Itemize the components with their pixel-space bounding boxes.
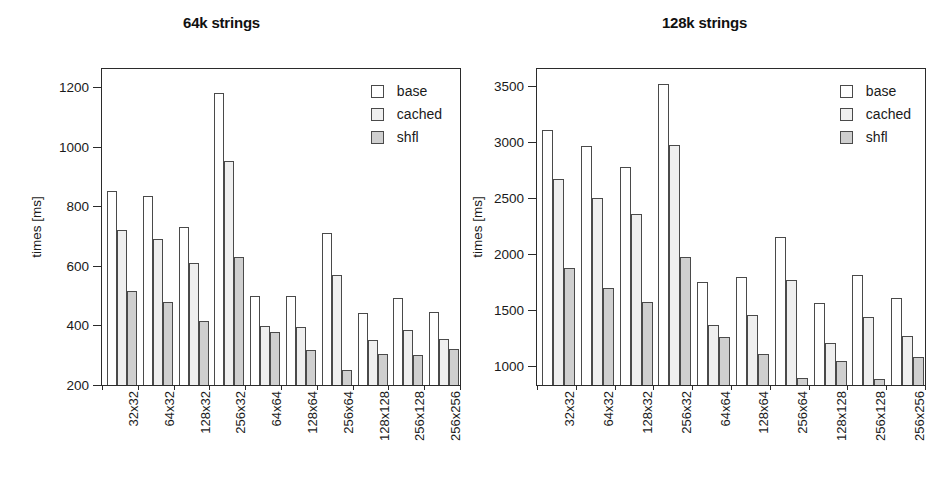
bar-base-64x64	[250, 296, 260, 385]
bar-cached-128x32	[631, 214, 642, 385]
bar-shfl-32x32	[564, 268, 575, 385]
legend-item-base: base	[371, 81, 442, 101]
plot-area-right: times [ms] 100015002000250030003500 32x3…	[536, 68, 926, 386]
legend-swatch-icon-base	[371, 85, 384, 98]
x-axis-label-64x32: 64x32	[601, 391, 616, 426]
legend-label-shfl: shfl	[866, 130, 888, 144]
y-tick-right-0	[528, 366, 537, 367]
bar-shfl-128x32	[199, 321, 209, 385]
x-axis-label-128x128: 128x128	[377, 391, 392, 441]
legend-item-cached: cached	[840, 104, 911, 124]
bar-cached-64x64	[260, 326, 270, 385]
y-tick-left-0	[93, 385, 102, 386]
bar-shfl-128x32	[642, 302, 653, 385]
bar-cached-256x64	[332, 275, 342, 385]
x-tick-left-10	[460, 385, 461, 390]
plot-area-left: times [ms] 20040060080010001200 32x3264x…	[101, 68, 461, 386]
legend-label-base: base	[397, 84, 427, 98]
y-tick-label-left-5: 1200	[59, 79, 89, 94]
bar-base-128x128	[358, 313, 368, 385]
x-axis-label-128x32: 128x32	[640, 391, 655, 434]
chart-title-left: 64k strings	[0, 14, 455, 31]
legend-swatch-icon-shfl	[371, 131, 384, 144]
bar-shfl-256x32	[680, 257, 691, 385]
bar-shfl-64x64	[270, 332, 280, 385]
y-tick-label-right-3: 2500	[494, 190, 524, 205]
x-axis-label-256x32: 256x32	[233, 391, 248, 434]
x-axis-label-64x32: 64x32	[162, 391, 177, 426]
y-axis-title-right: times [ms]	[470, 196, 485, 258]
bar-group	[138, 69, 174, 385]
y-tick-left-4	[93, 147, 102, 148]
figure-two-panel-bar-charts: 64k strings times [ms] 20040060080010001…	[0, 0, 935, 494]
bar-shfl-256x32	[234, 257, 244, 385]
y-tick-label-left-2: 600	[66, 258, 89, 273]
x-axis-label-128x32: 128x32	[198, 391, 213, 434]
bar-cached-128x128	[825, 343, 836, 385]
bar-group	[615, 69, 654, 385]
y-tick-left-5	[93, 87, 102, 88]
bar-cached-128x128	[368, 340, 378, 385]
y-tick-right-3	[528, 198, 537, 199]
y-tick-label-left-4: 1000	[59, 139, 89, 154]
bar-cached-256x256	[902, 336, 913, 385]
bar-base-128x32	[620, 167, 631, 386]
bar-cached-64x32	[153, 239, 163, 385]
y-tick-right-2	[528, 254, 537, 255]
bar-base-256x32	[214, 93, 224, 385]
bar-base-64x32	[581, 146, 592, 385]
bar-cached-256x32	[224, 161, 234, 385]
y-tick-label-left-0: 200	[66, 378, 89, 393]
y-tick-left-3	[93, 206, 102, 207]
legend-swatch-icon-cached	[840, 108, 853, 121]
bar-base-128x128	[814, 303, 825, 385]
legend-label-shfl: shfl	[397, 130, 419, 144]
bar-cached-256x64	[786, 280, 797, 385]
x-tick-right-10	[925, 385, 926, 390]
bar-group	[209, 69, 245, 385]
x-axis-label-64x64: 64x64	[269, 391, 284, 426]
bar-group	[692, 69, 731, 385]
bar-shfl-256x64	[342, 370, 352, 385]
x-axis-label-256x32: 256x32	[679, 391, 694, 434]
bar-base-128x32	[179, 227, 189, 385]
bar-base-256x128	[852, 275, 863, 385]
bar-group	[731, 69, 770, 385]
bar-shfl-128x128	[378, 354, 388, 385]
bar-base-32x32	[107, 191, 117, 385]
x-axis-label-256x64: 256x64	[795, 391, 810, 434]
bar-cached-32x32	[117, 230, 127, 385]
bar-group	[576, 69, 615, 385]
bar-cached-256x256	[439, 339, 449, 385]
bar-group	[317, 69, 353, 385]
bar-shfl-64x32	[603, 288, 614, 385]
legend-swatch-icon-cached	[371, 108, 384, 121]
x-axis-label-128x64: 128x64	[756, 391, 771, 434]
y-tick-right-1	[528, 310, 537, 311]
bar-shfl-256x128	[413, 355, 423, 385]
legend-item-shfl: shfl	[840, 127, 911, 147]
legend-label-cached: cached	[397, 107, 442, 121]
bar-cached-128x64	[296, 327, 306, 385]
x-axis-labels-right: 32x3264x32128x32256x3264x64128x64256x641…	[537, 385, 925, 475]
x-axis-label-32x32: 32x32	[126, 391, 141, 426]
legend-item-base: base	[840, 81, 911, 101]
bar-cached-256x128	[403, 330, 413, 385]
bar-cached-256x128	[863, 317, 874, 385]
bar-group	[245, 69, 281, 385]
legend-swatch-icon-base	[840, 85, 853, 98]
panel-64k-strings: 64k strings times [ms] 20040060080010001…	[0, 0, 467, 494]
bar-group	[537, 69, 576, 385]
bar-cached-32x32	[553, 179, 564, 385]
bar-shfl-64x64	[719, 337, 730, 385]
bar-cached-128x64	[747, 315, 758, 385]
bar-base-256x64	[775, 237, 786, 385]
bar-shfl-256x256	[913, 357, 924, 385]
x-axis-labels-left: 32x3264x32128x32256x3264x64128x64256x641…	[102, 385, 460, 475]
x-axis-label-256x64: 256x64	[341, 391, 356, 434]
chart-title-right: 128k strings	[471, 14, 935, 31]
bar-shfl-128x64	[306, 350, 316, 385]
y-axis-title-left: times [ms]	[29, 196, 44, 258]
panel-128k-strings: 128k strings times [ms] 1000150020002500…	[467, 0, 934, 494]
bar-group	[174, 69, 210, 385]
